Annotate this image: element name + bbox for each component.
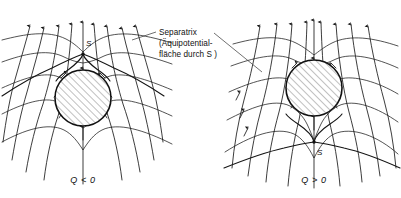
annotation-line-3: fläche durch S )	[159, 50, 217, 59]
field-line-diagram: S Q < 0	[0, 0, 401, 198]
left-panel: S Q < 0	[2, 22, 172, 185]
left-sphere-hatching	[56, 71, 111, 126]
annotation-line-2: (Äquipotential-	[159, 38, 213, 48]
right-panel: S Q > 0	[224, 20, 400, 188]
right-saddle-label: S	[317, 148, 323, 157]
right-sphere-hatching	[287, 61, 342, 116]
right-saddle-point	[312, 140, 315, 143]
right-charge-label: Q > 0	[301, 175, 326, 185]
leader-line-left	[132, 32, 156, 40]
separatrix-annotation: Separatrix (Äquipotential- fläche durch …	[132, 28, 262, 72]
figure-container: S Q < 0	[0, 0, 401, 198]
left-charge-label: Q < 0	[70, 175, 95, 185]
left-saddle-label: S	[86, 39, 92, 48]
annotation-line-1: Separatrix	[159, 28, 197, 37]
left-saddle-point	[81, 52, 84, 55]
